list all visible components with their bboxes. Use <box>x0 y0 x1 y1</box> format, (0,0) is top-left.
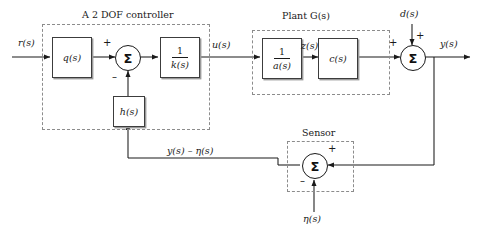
block-inverse-k-fraction: 1 k(s) <box>171 46 189 70</box>
summing-junction-controller[interactable]: Σ <box>115 45 141 71</box>
block-q[interactable]: q(s) <box>52 37 92 78</box>
block-h[interactable]: h(s) <box>113 96 145 127</box>
block-inverse-k-denominator: k(s) <box>171 60 189 70</box>
sign-output-top-plus: + <box>416 31 424 41</box>
block-diagram-canvas: A 2 DOF controller Plant G(s) Sensor q(s… <box>0 0 484 233</box>
block-h-label: h(s) <box>120 106 138 117</box>
block-inverse-a-numerator: 1 <box>279 47 285 57</box>
signal-label-eta: η(s) <box>303 214 321 224</box>
sigma-symbol: Σ <box>311 159 320 174</box>
summing-junction-output[interactable]: Σ <box>400 45 426 71</box>
signal-label-u: u(s) <box>212 40 230 50</box>
summing-junction-sensor[interactable]: Σ <box>302 153 328 179</box>
block-inverse-k-numerator: 1 <box>177 46 183 56</box>
sign-sensor-right-plus: + <box>328 144 336 154</box>
block-inverse-k[interactable]: 1 k(s) <box>160 37 200 78</box>
sensor-group-title: Sensor <box>302 128 335 138</box>
fraction-bar <box>274 58 290 59</box>
block-inverse-a[interactable]: 1 a(s) <box>262 38 302 79</box>
block-inverse-a-denominator: a(s) <box>273 61 291 71</box>
sign-output-left-plus: + <box>389 38 397 48</box>
sign-sensor-bottom-minus: – <box>300 176 305 186</box>
sigma-symbol: Σ <box>124 51 133 66</box>
signal-label-z: z(s) <box>301 41 318 51</box>
block-c-label: c(s) <box>329 53 347 64</box>
block-inverse-a-fraction: 1 a(s) <box>273 47 291 71</box>
sigma-symbol: Σ <box>409 51 418 66</box>
sign-controller-minus: – <box>112 72 117 82</box>
signal-label-d: d(s) <box>400 9 418 19</box>
block-c[interactable]: c(s) <box>318 38 358 79</box>
block-q-label: q(s) <box>63 52 81 63</box>
plant-group-title-text: Plant G(s) <box>282 10 330 21</box>
plant-group-title: Plant G(s) <box>282 11 330 21</box>
signal-label-r: r(s) <box>18 38 35 48</box>
signal-label-y: y(s) <box>440 39 458 49</box>
sign-controller-plus: + <box>103 38 111 48</box>
fraction-bar <box>172 57 188 58</box>
controller-group-title: A 2 DOF controller <box>82 10 173 20</box>
signal-label-feedback: y(s) – η(s) <box>167 146 213 156</box>
